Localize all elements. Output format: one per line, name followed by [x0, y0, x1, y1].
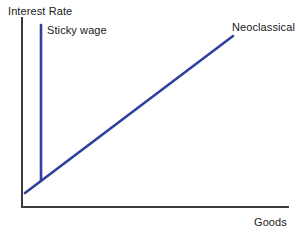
- sticky-wage-label: Sticky wage: [47, 25, 107, 36]
- x-axis-title: Goods: [254, 217, 287, 228]
- chart-canvas: [0, 0, 299, 232]
- neoclassical-label: Neoclassical: [232, 22, 295, 33]
- neoclassical-line: [25, 36, 233, 193]
- y-axis-title: Interest Rate: [8, 6, 72, 17]
- economics-diagram: Interest Rate Sticky wage Neoclassical G…: [0, 0, 299, 232]
